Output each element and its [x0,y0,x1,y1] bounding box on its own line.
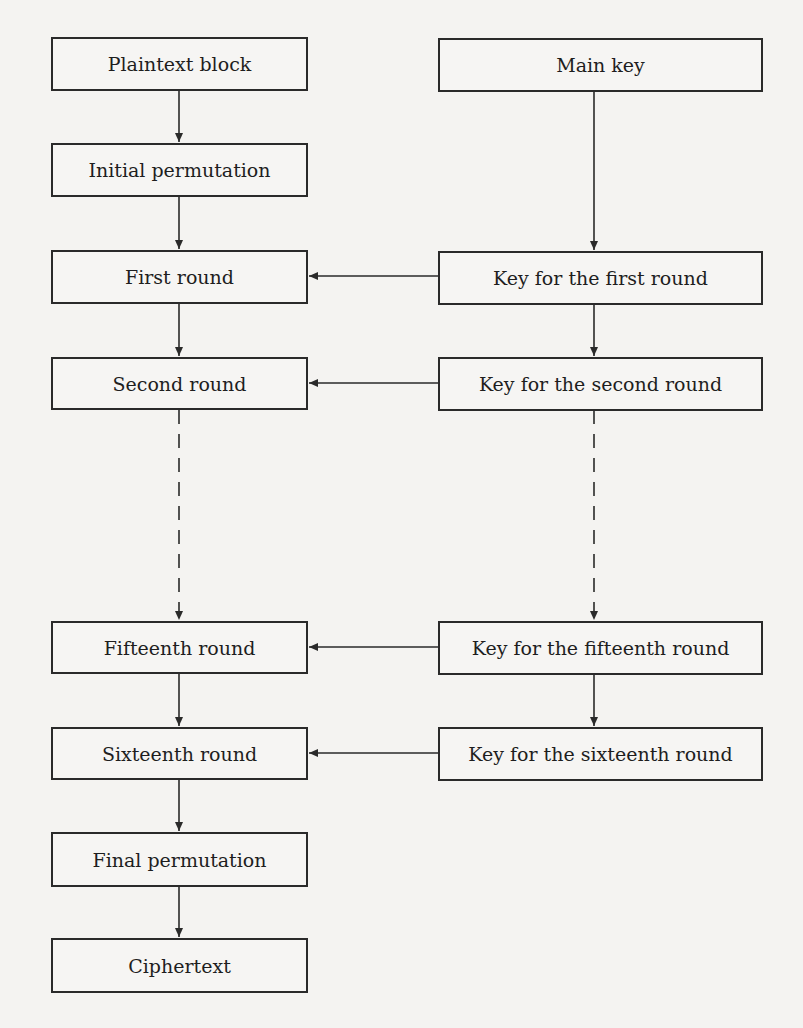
node-second-round: Second round [51,357,308,410]
node-label: Fifteenth round [104,637,256,659]
node-label: Plaintext block [108,53,252,75]
node-key-first-round: Key for the first round [438,251,763,305]
node-key-fifteenth-round: Key for the fifteenth round [438,621,763,675]
node-label: Main key [556,54,645,76]
node-label: First round [125,266,234,288]
node-fifteenth-round: Fifteenth round [51,621,308,674]
node-label: Key for the second round [479,373,722,395]
node-ciphertext: Ciphertext [51,938,308,993]
node-final-permutation: Final permutation [51,832,308,887]
node-first-round: First round [51,250,308,304]
node-label: Final permutation [92,849,266,871]
node-label: Key for the first round [493,267,708,289]
node-label: Sixteenth round [102,743,257,765]
node-key-second-round: Key for the second round [438,357,763,411]
node-plaintext-block: Plaintext block [51,37,308,91]
node-key-sixteenth-round: Key for the sixteenth round [438,727,763,781]
node-label: Ciphertext [128,955,231,977]
node-label: Initial permutation [88,159,270,181]
node-initial-permutation: Initial permutation [51,143,308,197]
node-label: Key for the sixteenth round [468,743,732,765]
node-label: Key for the fifteenth round [472,637,730,659]
node-label: Second round [113,373,247,395]
node-sixteenth-round: Sixteenth round [51,727,308,780]
node-main-key: Main key [438,38,763,92]
